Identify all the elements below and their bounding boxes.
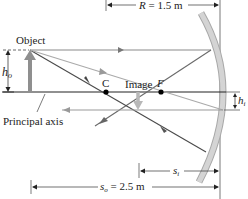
object-label: Object — [16, 34, 45, 46]
ray-center — [30, 50, 206, 152]
center-of-curvature-point — [103, 89, 108, 94]
h-o-label: ho — [2, 65, 12, 80]
ray-diagram: Object Image Principal axis C F ho hi R … — [0, 0, 248, 199]
focal-point — [158, 89, 163, 94]
principal-axis-leader — [37, 94, 45, 112]
R-label: R = 1.5 m — [138, 0, 183, 11]
principal-axis-label: Principal axis — [3, 115, 63, 127]
s-i-label: si — [173, 164, 179, 178]
focal-label: F — [156, 77, 164, 89]
image-label: Image — [125, 78, 153, 90]
s-o-label: so = 2.5 m — [100, 180, 145, 194]
h-i-label: hi — [238, 94, 246, 108]
center-label: C — [102, 77, 109, 89]
